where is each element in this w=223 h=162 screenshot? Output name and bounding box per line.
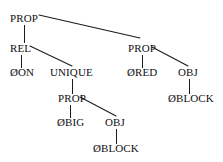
tree-node-big_leaf: ØBIG — [57, 116, 84, 128]
tree-node-prop_root: PROP — [10, 12, 38, 24]
tree-node-block_right: ØBLOCK — [168, 92, 214, 104]
tree-node-prop_mid: PROP — [58, 92, 86, 104]
tree-edge — [152, 47, 188, 66]
tree-edge — [39, 15, 140, 38]
parse-tree-figure: PROPRELØONUNIQUEPROPØBIGOBJØBLOCKPROPØRE… — [0, 0, 223, 162]
tree-node-red_leaf: ØRED — [127, 66, 157, 78]
tree-node-rel: REL — [10, 42, 31, 54]
tree-node-layer: PROPRELØONUNIQUEPROPØBIGOBJØBLOCKPROPØRE… — [10, 12, 214, 154]
tree-node-prop_right: PROP — [128, 42, 156, 54]
tree-node-unique: UNIQUE — [50, 66, 93, 78]
tree-node-block_bottom: ØBLOCK — [93, 142, 139, 154]
tree-edge — [30, 46, 72, 66]
tree-node-on_leaf: ØON — [10, 66, 34, 78]
parse-tree-canvas: PROPRELØONUNIQUEPROPØBIGOBJØBLOCKPROPØRE… — [0, 0, 223, 162]
tree-node-obj_mid: OBJ — [105, 116, 125, 128]
tree-node-obj_right: OBJ — [178, 66, 198, 78]
